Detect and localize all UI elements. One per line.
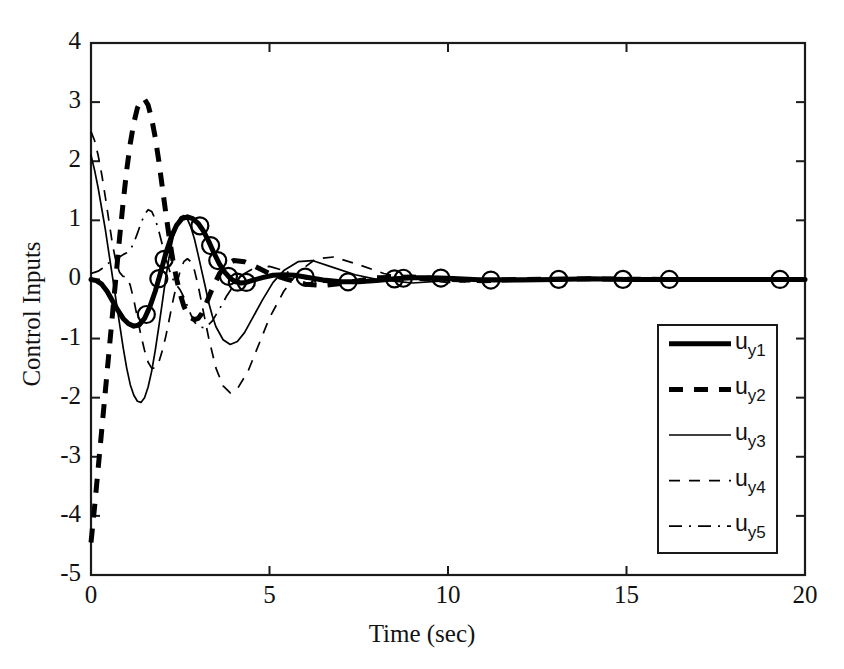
legend-label-subscript: y5 <box>748 523 766 542</box>
x-tick-label: 5 <box>240 581 300 609</box>
legend-label-base: u <box>735 328 748 354</box>
legend-label-y3: uy3 <box>735 419 766 452</box>
x-tick-label: 20 <box>775 581 835 609</box>
marker-group <box>138 217 789 323</box>
legend-label-y5: uy5 <box>735 510 766 543</box>
x-tick-label: 0 <box>61 581 121 609</box>
legend-label-y1: uy1 <box>735 328 766 361</box>
x-tick-label: 15 <box>597 581 657 609</box>
legend-label-base: u <box>735 419 748 445</box>
legend-label-subscript: y2 <box>748 387 766 406</box>
legend-label-subscript: y1 <box>748 341 766 360</box>
y-tick-label: -1 <box>25 323 81 351</box>
y-tick-label: 3 <box>25 86 81 114</box>
figure-canvas: Time (sec) Control Inputs 43210-1-2-3-4-… <box>0 0 844 669</box>
legend-label-base: u <box>735 510 748 536</box>
x-tick-label: 10 <box>418 581 478 609</box>
legend-label-y2: uy2 <box>735 373 766 406</box>
legend-label-base: u <box>735 465 748 491</box>
y-tick-label: 1 <box>25 204 81 232</box>
y-tick-label: 2 <box>25 145 81 173</box>
legend-label-subscript: y3 <box>748 432 766 451</box>
legend-label-y4: uy4 <box>735 465 766 498</box>
y-tick-label: -2 <box>25 382 81 410</box>
legend-label-subscript: y4 <box>748 478 766 497</box>
control-inputs-line-chart <box>0 0 844 669</box>
y-tick-label: 4 <box>25 27 81 55</box>
y-tick-label: -4 <box>25 500 81 528</box>
x-axis-label: Time (sec) <box>0 620 844 648</box>
y-tick-label: 0 <box>25 263 81 291</box>
legend-label-base: u <box>735 373 748 399</box>
y-tick-label: -3 <box>25 441 81 469</box>
